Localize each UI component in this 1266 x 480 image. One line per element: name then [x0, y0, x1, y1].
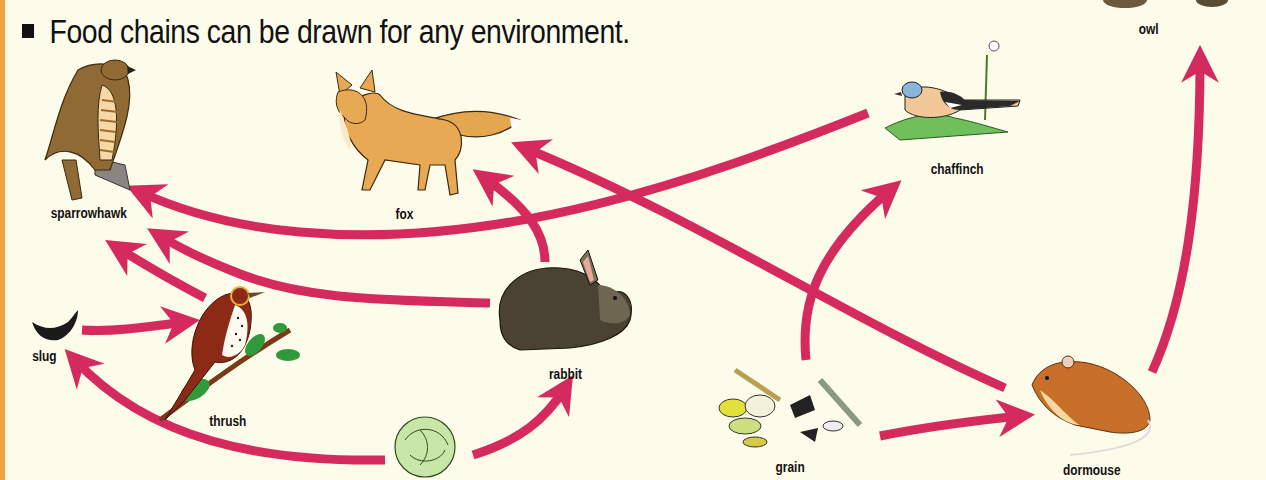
label-grain: grain	[776, 459, 805, 475]
label-thrush: thrush	[209, 413, 246, 429]
sparrowhawk-illustration	[45, 60, 136, 200]
label-slug: slug	[32, 348, 56, 364]
arrow-cabbage-to-rabbit	[473, 388, 565, 455]
arrow-dormouse-to-fox	[525, 148, 1005, 388]
rabbit-illustration	[499, 250, 631, 350]
arrow-dormouse-to-owl	[1152, 60, 1200, 372]
label-sparrowhawk: sparrowhawk	[51, 205, 127, 221]
grain-illustration	[719, 370, 860, 447]
dormouse-illustration	[1032, 356, 1150, 455]
chaffinch-illustration	[885, 41, 1020, 140]
owl-illustration	[1103, 0, 1228, 8]
label-dormouse: dormouse	[1063, 462, 1121, 478]
food-web-diagram	[0, 0, 1266, 480]
label-fox: fox	[396, 206, 414, 222]
label-rabbit: rabbit	[549, 366, 582, 382]
arrow-grain-to-chaffinch	[805, 190, 890, 360]
arrow-slug-to-thrush	[82, 322, 185, 331]
fox-illustration	[336, 70, 522, 195]
arrow-rabbit-to-sparrowhawk	[160, 236, 490, 303]
arrow-grain-to-dormouse	[880, 416, 1020, 436]
thrush-illustration	[160, 287, 300, 420]
label-owl: owl	[1139, 21, 1159, 37]
label-chaffinch: chaffinch	[931, 161, 984, 177]
slug-illustration	[32, 310, 78, 340]
arrow-cabbage-to-slug	[75, 360, 385, 460]
cabbage-illustration	[395, 417, 455, 477]
